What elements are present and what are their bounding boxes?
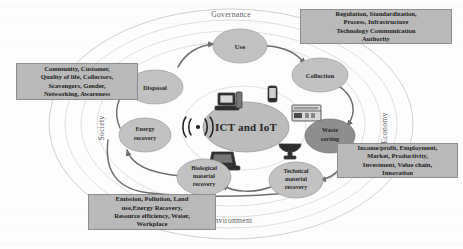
cycle-node-biological-material-recovery[interactable]: Biological material recovery [177, 159, 231, 195]
figure-canvas: Governance Environment Economy Society [0, 0, 463, 249]
callout-society: Community, Customer, Quality of life, Co… [16, 63, 138, 100]
pillar-label-governance: Governance [211, 10, 251, 19]
desktop-computer-icon [215, 92, 242, 110]
cycle-node-technical-material-recovery[interactable]: Technical material recovery [269, 162, 323, 198]
cycle-node-use[interactable]: Use [213, 29, 267, 63]
server-rack-icon [292, 105, 321, 121]
callout-economy-line-3: Investment, Value chain, [358, 161, 438, 169]
cycle-node-biological-label-line1: Biological [191, 165, 217, 171]
cycle-node-technical-label-line3: recovery [285, 184, 308, 190]
callout-governance: Regulation, Standardization, Process, In… [300, 9, 452, 44]
cycle-node-disposal-label: Disposal [143, 84, 167, 91]
callout-economy-line-4: Innovation [358, 169, 438, 177]
callout-governance-line-1: Regulation, Standardization, [335, 10, 416, 18]
cycle-node-technical-label-line1: Technical [284, 168, 309, 174]
callout-governance-line-2: Process, Infrastructure [335, 18, 416, 26]
callout-society-line-1: Community, Customer, [41, 65, 113, 73]
cycle-node-use-label: Use [235, 43, 245, 50]
satellite-dish-icon [279, 144, 301, 159]
callout-environment-line-2: use,Energy Recovery, [114, 204, 190, 212]
cycle-node-energy-label-line1: Energy [136, 126, 155, 132]
cycle-node-energy-recovery[interactable]: Energy recovery [119, 118, 171, 152]
pillar-label-environment: Environment [210, 216, 254, 225]
callout-environment-line-1: Emission, Pollution, Land [114, 195, 190, 203]
callout-society-line-2: Quality of life, Collectors, [41, 73, 113, 81]
callout-governance-line-4: Authority [335, 35, 416, 43]
cycle-node-collection[interactable]: Collection [292, 58, 348, 92]
callout-economy: Income/profit, Employment, Market, Produ… [337, 143, 458, 178]
arrow-technical-to-biological-recovery [222, 185, 273, 191]
cycle-node-biological-label-line3: recovery [193, 181, 216, 187]
pillar-label-society: Society [97, 116, 106, 141]
pillar-label-economy: Economy [380, 112, 389, 143]
mobile-phone-icon [268, 86, 277, 102]
callout-society-line-4: Networking, Awareness [41, 90, 113, 98]
callout-environment-line-4: Workplace [114, 220, 190, 228]
core-node-label: ICT and IoT [215, 121, 277, 133]
callout-environment: Emission, Pollution, Land use,Energy Rec… [88, 194, 216, 230]
callout-society-line-3: Scavengers, Gender, [41, 82, 113, 90]
callout-economy-line-1: Income/profit, Employment, [358, 144, 438, 152]
cycle-node-waste-sorting-label-line2: sorting [321, 136, 339, 142]
cycle-node-energy-label-line2: recovery [134, 135, 157, 141]
callout-governance-line-3: Technology Communication [335, 27, 416, 35]
arrow-use-to-collection [267, 46, 305, 64]
callout-environment-line-3: Resource efficiency, Water, [114, 212, 190, 220]
cycle-node-biological-label-line2: material [193, 173, 215, 179]
callout-economy-line-2: Market, Productivity, [358, 152, 438, 160]
cycle-node-waste-sorting-label-line1: Waste [322, 127, 338, 133]
arrow-biological-to-energy-recovery [127, 150, 180, 176]
cycle-node-technical-label-line2: material [285, 176, 307, 182]
cycle-node-collection-label: Collection [306, 72, 335, 79]
